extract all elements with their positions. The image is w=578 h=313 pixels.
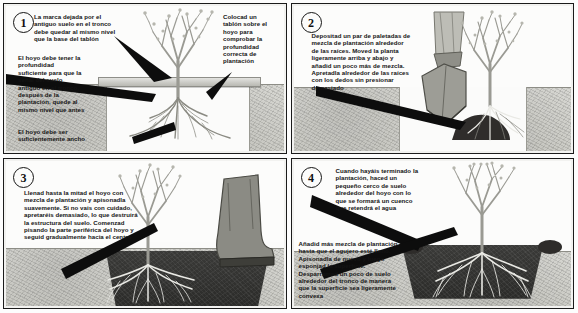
caption-soil-mark-level: La marca dejada por el antiguo suelo en … [34, 13, 142, 43]
panel-4-step-badge: 4 [301, 167, 322, 188]
panel-1-artwork: 1 La marca dejada por el antiguo suelo e… [6, 6, 284, 151]
caption-fill-and-firm: Llenad hasta la mitad el hoyo con mezcla… [24, 189, 174, 241]
panel-step-4: 4 Cuando hayáis terminado la plantación,… [291, 158, 575, 309]
caption-hole-width: El hoyo debe ser suficientemente ancho [18, 128, 113, 143]
panel-3-artwork: 3 Llenad hasta la mitad el hoyo con mezc… [6, 161, 284, 306]
caption-hole-depth: El hoyo debe tener la profundidad sufici… [18, 54, 110, 113]
panel-1-step-badge: 1 [13, 12, 34, 33]
panel-step-3: 3 Llenad hasta la mitad el hoyo con mezc… [3, 158, 287, 309]
caption-add-planting-mix: Depositad un par de paletadas de mezcla … [312, 32, 447, 91]
panel-step-2: 2 Depositad un par de paletadas de mezcl… [291, 3, 575, 154]
panel-2-step-badge: 2 [301, 12, 322, 33]
caption-top-up-and-level: Añadid más mezcla de plantación hasta qu… [299, 240, 427, 299]
panel-4-artwork: 4 Cuando hayáis terminado la plantación,… [294, 161, 572, 306]
panel-step-1: 1 La marca dejada por el antiguo suelo e… [3, 3, 287, 154]
illustration-sheet: 1 La marca dejada por el antiguo suelo e… [0, 0, 578, 313]
panel-2-artwork: 2 Depositad un par de paletadas de mezcl… [294, 6, 572, 151]
caption-plank-check: Colocad un tablón sobre el hoyo para com… [223, 13, 284, 65]
panel-3-step-badge: 3 [13, 167, 34, 188]
caption-water-basin: Cuando hayáis terminado la plantación, h… [336, 167, 446, 211]
